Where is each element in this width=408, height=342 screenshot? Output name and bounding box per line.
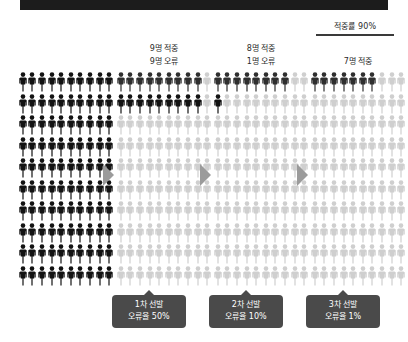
person-icon <box>28 223 36 243</box>
person-icon <box>76 158 84 178</box>
person-icon <box>67 137 75 157</box>
badge-notch-icon <box>144 290 154 295</box>
person-icon <box>19 223 27 243</box>
person-icon <box>262 72 270 92</box>
person-icon <box>38 244 46 264</box>
person-icon <box>214 180 222 200</box>
person-icon <box>38 94 46 114</box>
person-icon <box>105 72 113 92</box>
person-icon <box>349 115 357 135</box>
person-icon <box>252 72 260 92</box>
person-icon <box>76 72 84 92</box>
person-icon <box>117 223 125 243</box>
person-icon <box>378 158 386 178</box>
person-icon <box>203 137 211 157</box>
person-icon <box>291 223 299 243</box>
person-icon <box>359 180 367 200</box>
person-icon <box>359 244 367 264</box>
person-icon <box>48 115 56 135</box>
person-icon <box>320 72 328 92</box>
person-icon <box>214 223 222 243</box>
person-icon <box>146 244 154 264</box>
person-icon <box>96 94 104 114</box>
person-icon <box>359 137 367 157</box>
stage-badge-title: 1차 선발 <box>112 299 186 311</box>
person-icon <box>359 72 367 92</box>
person-icon <box>86 158 94 178</box>
stage-badge-title: 2차 선발 <box>209 299 283 311</box>
person-icon <box>146 72 154 92</box>
person-icon <box>126 244 134 264</box>
stage-badge-error-rate: 오류율 1% <box>306 311 380 323</box>
person-icon <box>67 266 75 286</box>
person-icon <box>174 72 182 92</box>
person-icon <box>388 94 396 114</box>
person-icon <box>262 244 270 264</box>
person-icon <box>203 266 211 286</box>
person-icon <box>165 115 173 135</box>
person-icon <box>28 137 36 157</box>
person-icon <box>281 115 289 135</box>
person-icon <box>117 180 125 200</box>
person-icon <box>223 158 231 178</box>
person-icon <box>340 180 348 200</box>
person-icon <box>300 223 308 243</box>
person-icon <box>349 201 357 221</box>
person-icon <box>311 94 319 114</box>
person-icon <box>378 201 386 221</box>
arrow-stage-1-to-stage-2-icon <box>200 164 211 186</box>
person-icon <box>165 223 173 243</box>
person-icon <box>223 201 231 221</box>
stage-badge-stage-2: 2차 선발오류율 10% <box>209 295 283 328</box>
person-icon <box>48 201 56 221</box>
person-icon <box>243 158 251 178</box>
person-icon <box>28 244 36 264</box>
person-icon <box>340 223 348 243</box>
person-icon <box>174 266 182 286</box>
person-icon <box>117 115 125 135</box>
person-icon <box>378 266 386 286</box>
stage-badge-error-rate: 오류율 10% <box>209 311 283 323</box>
arrow-pool-to-stage-1-icon <box>103 164 114 186</box>
person-icon <box>19 115 27 135</box>
person-icon <box>38 223 46 243</box>
person-icon <box>117 158 125 178</box>
person-icon <box>243 72 251 92</box>
person-icon <box>214 201 222 221</box>
person-icon <box>136 94 144 114</box>
person-icon <box>38 201 46 221</box>
person-icon <box>28 266 36 286</box>
person-icon <box>76 244 84 264</box>
person-icon <box>48 72 56 92</box>
person-icon <box>214 158 222 178</box>
person-icon <box>28 158 36 178</box>
person-icon <box>117 72 125 92</box>
person-icon <box>105 201 113 221</box>
person-icon <box>320 158 328 178</box>
person-icon <box>57 266 65 286</box>
person-icon <box>368 94 376 114</box>
person-icon <box>174 201 182 221</box>
person-icon <box>320 115 328 135</box>
person-icon <box>252 201 260 221</box>
person-icon <box>368 266 376 286</box>
person-icon <box>368 180 376 200</box>
person-icon <box>96 223 104 243</box>
person-icon <box>349 94 357 114</box>
person-icon <box>233 115 241 135</box>
person-icon <box>311 158 319 178</box>
person-icon <box>223 180 231 200</box>
person-icon <box>48 180 56 200</box>
accuracy-callout: 적중률 90% <box>316 20 394 36</box>
person-icon <box>271 72 279 92</box>
person-icon <box>105 115 113 135</box>
person-icon <box>243 137 251 157</box>
person-icon <box>96 115 104 135</box>
person-icon <box>223 72 231 92</box>
person-icon <box>271 158 279 178</box>
person-icon <box>397 180 405 200</box>
pictogram-grid-stage-2 <box>213 72 309 287</box>
person-icon <box>214 137 222 157</box>
badge-notch-icon <box>338 290 348 295</box>
person-icon <box>126 266 134 286</box>
